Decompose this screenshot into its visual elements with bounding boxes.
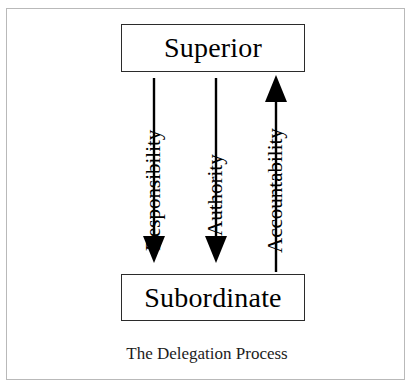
- node-superior[interactable]: Superior: [121, 24, 305, 72]
- node-subordinate-label: Subordinate: [144, 284, 282, 312]
- delegation-process-diagram: Superior Subordinate Responsibility Auth…: [0, 0, 414, 387]
- node-superior-label: Superior: [164, 34, 262, 62]
- flow-label-responsibility: Responsibility: [143, 130, 164, 251]
- node-subordinate[interactable]: Subordinate: [121, 274, 305, 321]
- flow-label-accountability: Accountability: [265, 128, 286, 253]
- flow-label-authority: Authority: [205, 154, 226, 236]
- diagram-caption: The Delegation Process: [0, 344, 414, 364]
